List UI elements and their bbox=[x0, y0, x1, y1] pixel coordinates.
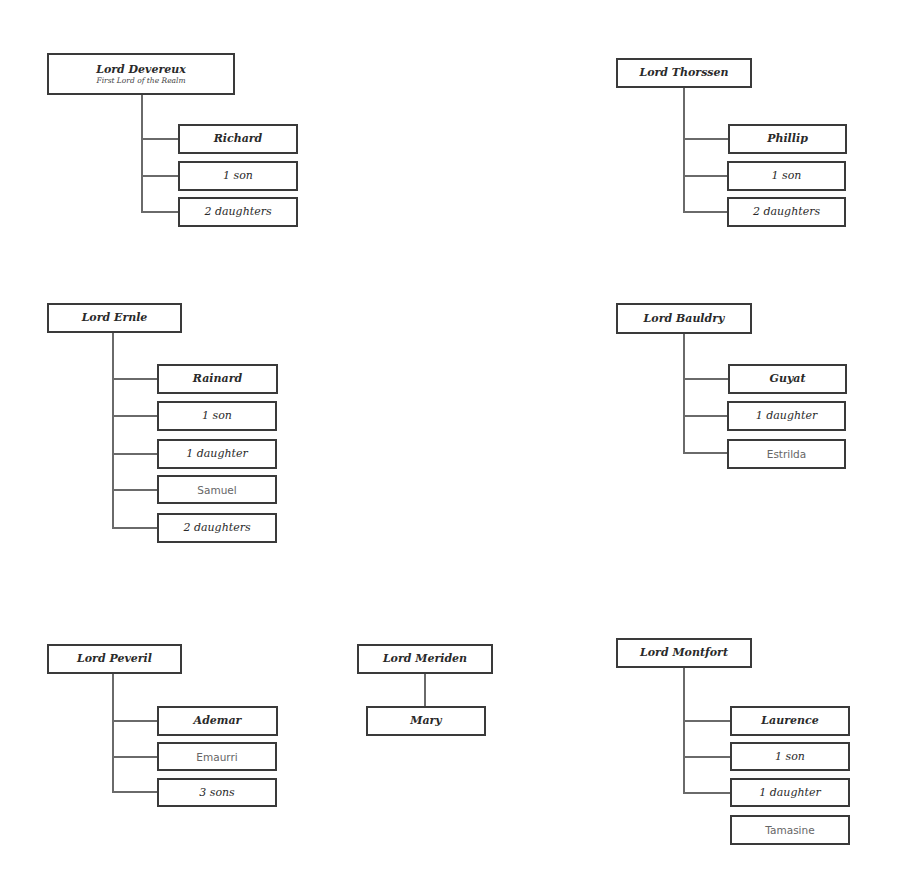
connector-line bbox=[683, 756, 730, 758]
node-label: 3 sons bbox=[199, 787, 235, 799]
node-label: 1 daughter bbox=[759, 787, 821, 799]
node-subtitle: First Lord of the Realm bbox=[96, 76, 185, 85]
connector-line bbox=[141, 95, 143, 213]
node-label: Laurence bbox=[761, 715, 818, 727]
child-node-daughters: 2 daughters bbox=[178, 197, 298, 227]
connector-line bbox=[112, 489, 157, 491]
node-label: 1 son bbox=[772, 170, 802, 182]
child-node-daughters: 1 daughter bbox=[157, 439, 277, 469]
connector-line bbox=[141, 138, 178, 140]
node-label: Lord Meriden bbox=[383, 653, 467, 665]
connector-line bbox=[112, 453, 157, 455]
lord-ernle-node: Lord Ernle bbox=[47, 303, 182, 333]
node-label: Tamasine bbox=[765, 824, 814, 836]
connector-line bbox=[683, 334, 685, 454]
connector-line bbox=[141, 175, 178, 177]
child-node-tamasine: Tamasine bbox=[730, 815, 850, 845]
connector-line bbox=[424, 674, 426, 706]
node-label: Lord Devereux bbox=[96, 64, 186, 76]
node-label: 1 daughter bbox=[756, 410, 818, 422]
node-label: Ademar bbox=[194, 715, 242, 727]
node-label: 1 son bbox=[202, 410, 232, 422]
lord-meriden-node: Lord Meriden bbox=[357, 644, 493, 674]
child-node-emaurri: Emaurri bbox=[157, 742, 277, 771]
child-node-sons: 1 son bbox=[727, 161, 846, 191]
node-label: Lord Peveril bbox=[77, 653, 152, 665]
child-node-sons: 1 son bbox=[730, 742, 850, 771]
child-node-sons: 1 son bbox=[157, 401, 277, 431]
child-node-richard: Richard bbox=[178, 124, 298, 154]
connector-line bbox=[112, 720, 157, 722]
connector-line bbox=[683, 88, 685, 213]
connector-line bbox=[683, 792, 730, 794]
child-node-sons: 3 sons bbox=[157, 778, 277, 807]
node-label: Mary bbox=[410, 715, 442, 727]
lord-montfort-node: Lord Montfort bbox=[616, 638, 752, 668]
node-label: Lord Thorssen bbox=[639, 67, 728, 79]
connector-line bbox=[112, 378, 157, 380]
child-node-samuel: Samuel bbox=[157, 475, 277, 504]
lord-devereux-node: Lord Devereux First Lord of the Realm bbox=[47, 53, 235, 95]
node-label: 1 son bbox=[223, 170, 253, 182]
child-node-phillip: Phillip bbox=[728, 124, 847, 154]
connector-line bbox=[683, 138, 728, 140]
child-node-laurence: Laurence bbox=[730, 706, 850, 736]
child-node-rainard: Rainard bbox=[157, 364, 278, 394]
connector-line bbox=[683, 415, 727, 417]
lord-bauldry-node: Lord Bauldry bbox=[616, 303, 752, 334]
lord-peveril-node: Lord Peveril bbox=[47, 644, 182, 674]
node-label: Phillip bbox=[767, 133, 808, 145]
child-node-daughters: 1 daughter bbox=[730, 778, 850, 807]
child-node-ademar: Ademar bbox=[157, 706, 278, 736]
connector-line bbox=[112, 333, 114, 528]
node-label: 2 daughters bbox=[204, 206, 271, 218]
node-label: 1 daughter bbox=[186, 448, 248, 460]
node-label: Richard bbox=[214, 133, 263, 145]
connector-line bbox=[141, 211, 178, 213]
node-label: Samuel bbox=[197, 484, 236, 496]
node-label: 2 daughters bbox=[183, 522, 250, 534]
connector-line bbox=[683, 668, 685, 794]
connector-line bbox=[112, 791, 157, 793]
child-node-daughters: 1 daughter bbox=[727, 401, 846, 431]
connector-line bbox=[112, 756, 157, 758]
node-label: Lord Ernle bbox=[82, 312, 148, 324]
child-node-mary: Mary bbox=[366, 706, 486, 736]
child-node-daughters: 2 daughters bbox=[157, 513, 277, 543]
connector-line bbox=[683, 378, 728, 380]
connector-line bbox=[683, 211, 728, 213]
lord-thorssen-node: Lord Thorssen bbox=[616, 58, 752, 88]
child-node-guyat: Guyat bbox=[728, 364, 847, 394]
connector-line bbox=[683, 452, 727, 454]
connector-line bbox=[112, 527, 157, 529]
connector-line bbox=[112, 415, 157, 417]
node-label: Rainard bbox=[193, 373, 242, 385]
connector-line bbox=[112, 674, 114, 793]
node-label: Lord Montfort bbox=[640, 647, 728, 659]
connector-line bbox=[683, 175, 728, 177]
child-node-sons: 1 son bbox=[178, 161, 298, 191]
child-node-daughters: 2 daughters bbox=[727, 197, 846, 227]
node-label: Emaurri bbox=[196, 751, 237, 763]
node-label: Guyat bbox=[770, 373, 806, 385]
node-label: 1 son bbox=[775, 751, 805, 763]
node-label: Estrilda bbox=[767, 448, 806, 460]
connector-line bbox=[683, 720, 730, 722]
node-label: 2 daughters bbox=[753, 206, 820, 218]
node-label: Lord Bauldry bbox=[644, 313, 725, 325]
child-node-estrilda: Estrilda bbox=[727, 439, 846, 469]
